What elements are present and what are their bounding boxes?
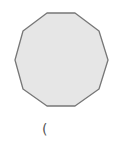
decagon-shape (15, 13, 108, 106)
answer-label: ( (42, 120, 47, 138)
diagram-canvas (0, 0, 136, 145)
